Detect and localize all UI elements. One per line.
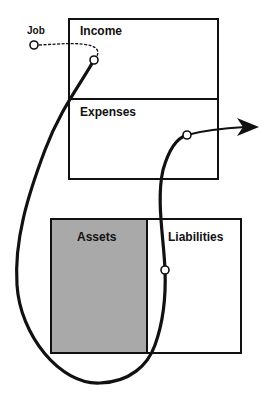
- income-node: [90, 56, 98, 64]
- job-label: Job: [27, 25, 45, 36]
- expenses-label: Expenses: [80, 105, 136, 119]
- liabilities-node: [161, 266, 169, 274]
- liabilities-label: Liabilities: [168, 230, 224, 244]
- cashflow-diagram: Job Income Expenses Assets Liabilities: [0, 0, 272, 403]
- assets-label: Assets: [77, 230, 117, 244]
- expenses-node: [183, 131, 191, 139]
- job-node: [30, 41, 38, 49]
- income-label: Income: [80, 24, 122, 38]
